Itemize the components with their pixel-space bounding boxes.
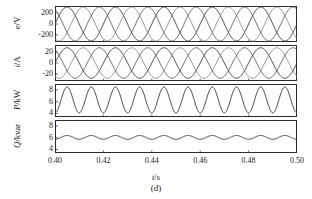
plot-panel-reactive-power [55,120,297,153]
plot-panel-active-power [55,84,297,117]
y-axis-unit: /kW [12,89,22,104]
y-axis-unit: /V [12,17,22,26]
plot-panel-current [55,45,297,81]
x-tick-label: 0.50 [284,157,310,165]
y-tick-label: 4 [49,145,53,153]
y-axis-symbol: e [12,25,22,29]
plot-curves-reactive-power [55,120,297,153]
x-tick-label: 0.44 [139,157,165,165]
y-tick-label: 200 [41,9,53,17]
y-tick-label: 8 [49,86,53,94]
plot-curves-voltage [55,6,297,42]
y-tick-label: -200 [38,31,53,39]
figure-panel-d: 2000-200e/V200-20i/A864P/kW864Q/kvar0.40… [0,0,312,199]
y-tick-label: 6 [49,134,53,142]
y-axis-symbol: Q [12,141,22,147]
x-tick-label: 0.46 [187,157,213,165]
y-axis-label-current: i/A [12,45,22,79]
y-tick-label: 0 [49,59,53,67]
y-axis-label-reactive-power: Q/kvar [12,119,22,153]
y-axis-symbol: P [12,104,22,109]
x-tick-label: 0.48 [236,157,262,165]
y-tick-labels-current: 200-20 [31,45,53,81]
x-tick-label: 0.42 [90,157,116,165]
x-tick-label: 0.40 [42,157,68,165]
y-tick-label: 0 [49,20,53,28]
x-axis-unit: /s [154,172,160,182]
plot-panel-voltage [55,6,297,42]
y-tick-labels-active-power: 864 [31,84,53,117]
y-axis-unit: /A [12,57,22,66]
y-axis-unit: /kvar [12,124,22,142]
y-axis-label-active-power: P/kW [12,83,22,117]
y-tick-label: 20 [45,48,53,56]
curve-P [55,87,297,113]
curve-i_a [55,48,297,79]
y-tick-labels-reactive-power: 864 [31,120,53,153]
y-tick-label: 6 [49,98,53,106]
curve-Q [55,136,297,140]
y-axis-label-voltage: e/V [12,6,22,40]
figure-caption: (d) [0,183,312,193]
x-axis-label: t/s [0,172,312,182]
y-tick-label: 8 [49,122,53,130]
y-axis-symbol: i [12,65,22,67]
y-tick-label: -20 [42,70,53,78]
plot-curves-current [55,45,297,81]
y-tick-labels-voltage: 2000-200 [31,6,53,42]
curve-e_a [55,7,297,41]
plot-curves-active-power [55,84,297,117]
y-tick-label: 4 [49,109,53,117]
